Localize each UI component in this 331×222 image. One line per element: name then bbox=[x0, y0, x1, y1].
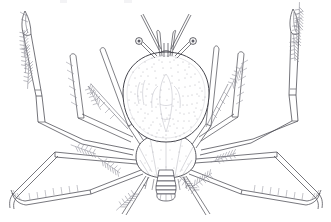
figure-root bbox=[0, 0, 331, 222]
eye-right bbox=[190, 38, 197, 45]
eye-left bbox=[136, 38, 143, 45]
crab-illustration bbox=[0, 0, 331, 222]
page-crop-artifact-left bbox=[60, 0, 67, 3]
carapace bbox=[123, 51, 209, 142]
page-crop-artifact-right bbox=[124, 0, 132, 3]
